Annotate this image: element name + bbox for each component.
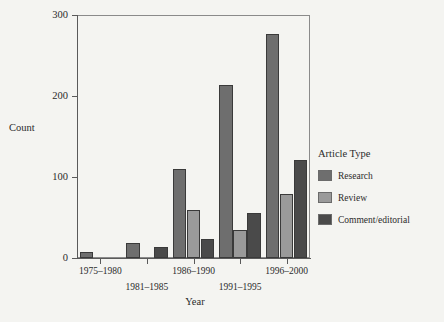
legend-item[interactable]: Comment/editorial [318, 214, 442, 225]
legend-swatch-icon [318, 214, 332, 225]
bar [154, 247, 168, 258]
x-tick-label: 1991–1995 [219, 282, 262, 292]
y-axis-line [77, 15, 78, 259]
x-tick [287, 259, 288, 264]
y-tick-label: 200 [52, 91, 68, 102]
legend-item-label: Research [338, 171, 373, 181]
bar [173, 169, 187, 258]
chart-root: 0100200300 Count 1975–19801981–19851986–… [0, 0, 444, 322]
y-tick [72, 96, 77, 97]
legend-item-label: Review [338, 193, 367, 203]
bar-layer [77, 15, 310, 258]
legend-swatch-icon [318, 192, 332, 203]
y-tick-label: 100 [52, 172, 68, 183]
legend-title: Article Type [318, 148, 442, 159]
x-tick-label: 1986–1990 [172, 266, 215, 276]
bar [187, 210, 201, 258]
x-tick [100, 259, 101, 264]
legend-swatch-icon [318, 170, 332, 181]
legend-item[interactable]: Review [318, 192, 442, 203]
legend-item-label: Comment/editorial [338, 215, 410, 225]
x-axis-title: Year [0, 296, 390, 307]
bar [201, 239, 215, 258]
x-tick [194, 259, 195, 264]
y-tick [72, 177, 77, 178]
bar [280, 194, 294, 258]
legend-entries: ResearchReviewComment/editorial [318, 170, 442, 225]
y-tick [72, 15, 77, 16]
y-tick-label: 0 [63, 253, 68, 264]
bar [126, 243, 140, 258]
bar [266, 34, 280, 258]
x-tick-label: 1996–2000 [265, 266, 308, 276]
y-tick-label: 300 [52, 10, 68, 21]
bar [233, 230, 247, 258]
x-tick [147, 259, 148, 264]
legend: Article Type ResearchReviewComment/edito… [318, 148, 442, 236]
legend-item[interactable]: Research [318, 170, 442, 181]
y-axis-title: Count [9, 122, 35, 133]
x-tick [240, 259, 241, 264]
x-tick-label: 1975–1980 [79, 266, 122, 276]
bar [219, 85, 233, 258]
bar [294, 160, 308, 258]
bar [247, 213, 261, 258]
x-tick-label: 1981–1985 [126, 282, 169, 292]
